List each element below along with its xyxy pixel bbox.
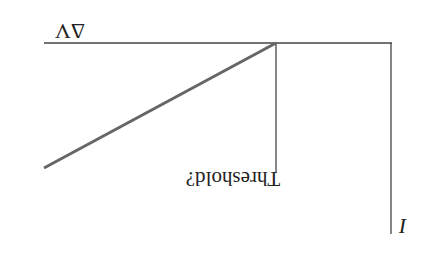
x-axis-label: ΔV bbox=[55, 19, 85, 44]
iv-curve bbox=[44, 43, 276, 168]
threshold-label: Threshold? bbox=[186, 167, 280, 191]
diagram-canvas: ΔV I Threshold? bbox=[0, 0, 430, 256]
y-axis-label: I bbox=[398, 214, 408, 239]
